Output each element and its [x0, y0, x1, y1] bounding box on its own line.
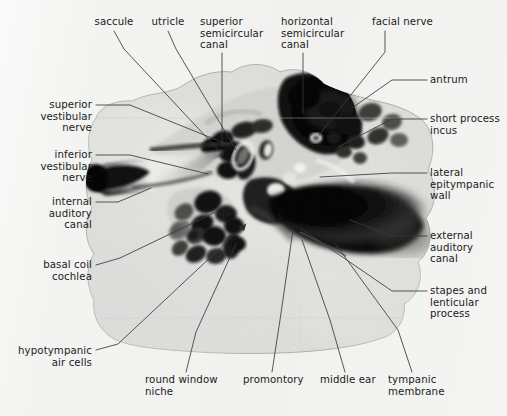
label-basal-coil-cochlea: basal coil cochlea — [22, 259, 92, 282]
label-superior-semicircular-canal: superior semicircular canal — [200, 16, 272, 51]
label-superior-vestibular-nerve: superior vestibular nerve — [22, 99, 92, 134]
label-saccule: saccule — [86, 16, 142, 28]
label-utricle: utricle — [142, 16, 194, 28]
label-promontory: promontory — [243, 374, 311, 386]
label-facial-nerve: facial nerve — [372, 16, 438, 28]
label-internal-auditory-canal: internal auditory canal — [22, 196, 92, 231]
label-horizontal-semicircular-canal: horizontal semicircular canal — [281, 16, 353, 51]
label-inferior-vestibular-nerve: inferior vestibular nerve — [22, 149, 92, 184]
label-short-process-incus: short process incus — [430, 113, 502, 136]
label-round-window-niche: round window niche — [145, 374, 225, 397]
label-external-auditory-canal: external auditory canal — [430, 230, 500, 265]
label-antrum: antrum — [430, 74, 490, 86]
label-tympanic-membrane: tympanic membrane — [388, 374, 460, 397]
label-hypotympanic-air-cells: hypotympanic air cells — [8, 345, 92, 368]
label-lateral-epitympanic-wall: lateral epitympanic wall — [430, 167, 500, 202]
label-stapes-and-lenticular-process: stapes and lenticular process — [430, 285, 502, 320]
anatomical-figure: sacculeutriclesuperior semicircular cana… — [0, 0, 507, 416]
label-middle-ear: middle ear — [320, 374, 382, 386]
